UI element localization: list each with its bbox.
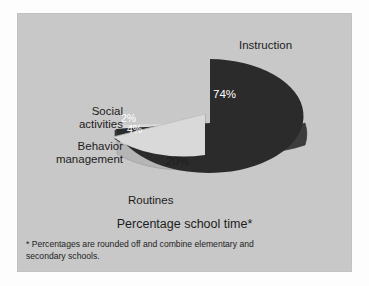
category-label-social-line2: activities bbox=[61, 118, 123, 131]
data-label-routines: 20% bbox=[166, 155, 189, 167]
category-label-behavior-line2: management bbox=[35, 153, 123, 166]
chart-footnote-line1: * Percentages are rounded off and combin… bbox=[26, 239, 326, 251]
figure-pie-school-time: 74% 20% 4% 2% Instruction Social activit… bbox=[0, 0, 369, 286]
slice-instruction-top bbox=[116, 59, 303, 173]
data-label-instruction: 74% bbox=[213, 88, 236, 100]
category-label-instruction: Instruction bbox=[239, 39, 292, 52]
category-label-behavior-line1: Behavior bbox=[35, 140, 123, 153]
chart-panel: 74% 20% 4% 2% Instruction Social activit… bbox=[17, 13, 352, 272]
category-label-routines: Routines bbox=[128, 194, 173, 207]
category-label-social-activities: Social activities bbox=[61, 105, 123, 131]
category-label-social-line1: Social bbox=[61, 105, 123, 118]
chart-caption: Percentage school time* bbox=[17, 217, 352, 231]
data-label-behavior-management: 4% bbox=[127, 123, 142, 135]
chart-footnote: * Percentages are rounded off and combin… bbox=[26, 239, 326, 262]
data-label-social-activities: 2% bbox=[121, 112, 136, 124]
pie-chart: 74% 20% 4% 2% Instruction Social activit… bbox=[17, 13, 352, 213]
category-label-behavior-management: Behavior management bbox=[35, 140, 123, 166]
chart-footnote-line2: secondary schools. bbox=[26, 251, 326, 263]
